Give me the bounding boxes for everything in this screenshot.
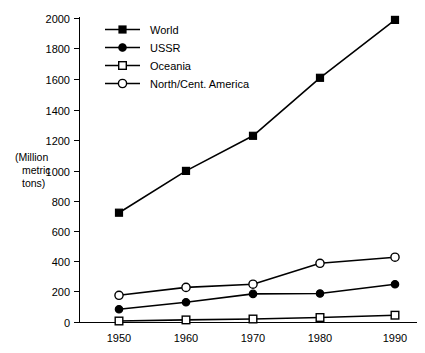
legend-item-north-cent-america[interactable]: North/Cent. America — [105, 78, 250, 90]
data-point-oceania-1980 — [316, 314, 324, 322]
data-point-ussr-1960 — [182, 299, 189, 306]
data-point-world-1960 — [183, 167, 190, 174]
data-point-ussr-1970 — [249, 290, 256, 297]
data-point-world-1970 — [250, 132, 257, 139]
data-point-world-1980 — [317, 74, 324, 81]
y-axis-title-line-3: tons) — [22, 177, 45, 189]
data-point-oceania-1990 — [391, 311, 399, 319]
data-point-north-cent-america-1980 — [316, 259, 324, 267]
data-point-ussr-1950 — [115, 306, 122, 313]
legend-marker-north-cent-america — [118, 79, 126, 87]
y-tick-label-1200: 1200 — [46, 135, 70, 147]
y-tick-label-600: 600 — [52, 226, 70, 238]
x-tick-label-1980: 1980 — [308, 332, 332, 344]
data-point-north-cent-america-1960 — [182, 283, 190, 291]
legend-item-world[interactable]: World — [105, 24, 179, 36]
y-tick-marks — [74, 19, 80, 323]
x-tick-label-1970: 1970 — [241, 332, 265, 344]
chart-figure: 2000 1800 1600 1400 1200 1000 800 600 40… — [0, 0, 425, 353]
y-tick-label-0: 0 — [64, 317, 70, 329]
data-point-world-1990 — [392, 16, 399, 23]
y-tick-label-200: 200 — [52, 286, 70, 298]
series-line-ussr — [119, 284, 395, 309]
y-tick-label-800: 800 — [52, 196, 70, 208]
data-point-north-cent-america-1990 — [391, 253, 399, 261]
legend-marker-world — [119, 26, 126, 33]
legend-label-ussr: USSR — [150, 42, 181, 54]
legend-item-ussr[interactable]: USSR — [105, 42, 181, 54]
x-tick-label-1960: 1960 — [174, 332, 198, 344]
y-axis-title-line-1: (Million — [15, 151, 48, 163]
legend-item-oceania[interactable]: Oceania — [105, 60, 192, 72]
legend-marker-ussr — [119, 44, 126, 51]
y-tick-label-1600: 1600 — [46, 74, 70, 86]
legend-label-oceania: Oceania — [150, 60, 192, 72]
data-point-world-1950 — [116, 209, 123, 216]
data-point-oceania-1960 — [182, 316, 190, 324]
data-point-oceania-1970 — [249, 315, 257, 323]
legend-label-world: World — [150, 24, 179, 36]
y-axis-title: (Million metric tons) — [15, 151, 51, 189]
data-point-oceania-1950 — [115, 317, 123, 325]
data-point-ussr-1990 — [391, 281, 398, 288]
x-tick-labels: 1950 1960 1970 1980 1990 — [107, 332, 407, 344]
x-tick-label-1950: 1950 — [107, 332, 131, 344]
data-point-north-cent-america-1950 — [115, 291, 123, 299]
y-tick-label-2000: 2000 — [46, 13, 70, 25]
y-axis-title-line-2: metric — [22, 164, 51, 176]
x-tick-label-1990: 1990 — [383, 332, 407, 344]
data-point-ussr-1980 — [316, 290, 323, 297]
chart-axes — [80, 17, 418, 323]
y-tick-label-400: 400 — [52, 256, 70, 268]
legend-label-north-cent-america: North/Cent. America — [150, 78, 250, 90]
chart-legend: World USSR Oceania North/Cent. America — [105, 24, 250, 90]
data-point-north-cent-america-1970 — [249, 280, 257, 288]
legend-marker-oceania — [119, 62, 127, 70]
y-tick-label-1400: 1400 — [46, 105, 70, 117]
line-chart: 2000 1800 1600 1400 1200 1000 800 600 40… — [0, 0, 425, 353]
y-tick-label-1800: 1800 — [46, 43, 70, 55]
